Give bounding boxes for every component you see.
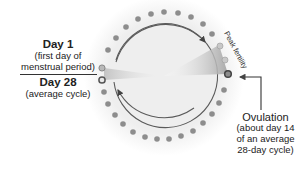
peak-fertility-dot [217, 43, 223, 49]
day1-dot [99, 65, 105, 71]
day28-title: Day 28 [18, 76, 98, 89]
day28-desc: (average cycle) [18, 89, 98, 100]
ovulation-dot [225, 71, 232, 78]
peak-fertility-dot [222, 57, 228, 63]
menstrual-cycle-diagram: Peak fertility Day 1 (first day of menst… [0, 0, 303, 175]
day28-label: Day 28 (average cycle) [18, 76, 98, 100]
day28-dot [99, 77, 105, 83]
day1-label: Day 1 (first day of menstrual period) [18, 38, 98, 72]
day1-title: Day 1 [18, 38, 98, 51]
ovulation-label: Ovulation (about day 14 of an average 28… [228, 111, 303, 155]
day1-day28-divider [20, 74, 97, 75]
ovulation-desc-2: of an average [228, 134, 303, 145]
ovulation-desc-3: 28-day cycle) [228, 145, 303, 156]
day1-desc-1: (first day of [18, 51, 98, 62]
day1-desc-2: menstrual period) [18, 62, 98, 73]
